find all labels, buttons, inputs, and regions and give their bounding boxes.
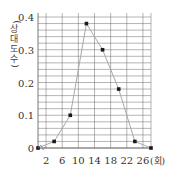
y-axis-title: ( 상 대 도 수 ) [10, 20, 22, 68]
x-tick-14: 14 [88, 155, 101, 166]
relative-frequency-polygon-chart: ( 상 대 도 수 ) 0.4 0.3 0.2 0.1 0 2610141822… [0, 0, 171, 181]
data-point [101, 48, 105, 52]
x-tick-26: 26 [137, 155, 150, 166]
y-tick-0.2: 0.2 [18, 78, 34, 89]
x-axis-unit: (회) [150, 156, 165, 166]
data-point [117, 87, 121, 91]
x-tick-22: 22 [120, 155, 133, 166]
x-tick-10: 10 [72, 155, 85, 166]
data-point [85, 22, 89, 26]
y-title-char-3: 도 [10, 44, 18, 54]
y-title-char-2: 대 [10, 34, 18, 44]
data-point [52, 140, 56, 144]
data-point [149, 146, 153, 150]
y-tick-0.3: 0.3 [18, 45, 34, 56]
y-tick-0.1: 0.1 [18, 110, 34, 121]
x-tick-18: 18 [104, 155, 117, 166]
x-tick-2: 2 [43, 155, 49, 166]
x-tick-labels: 261014182226 [43, 155, 149, 166]
x-tick-6: 6 [59, 155, 65, 166]
svg-text:): ) [10, 64, 20, 68]
grid [38, 13, 151, 148]
data-point [68, 113, 72, 117]
y-title-char-1: 상 [10, 24, 18, 34]
data-point [133, 140, 137, 144]
y-title-char-4: 수 [10, 54, 18, 64]
y-tick-0.4: 0.4 [18, 12, 34, 23]
origin-label: 0 [28, 143, 34, 154]
